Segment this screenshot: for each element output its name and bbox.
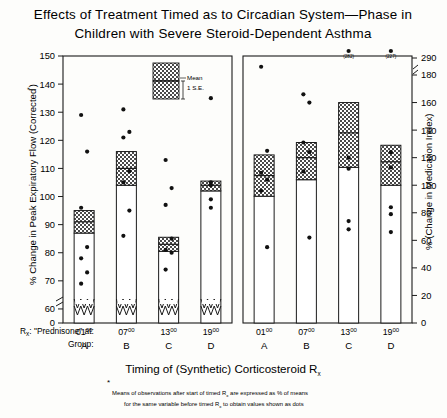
left-tick-label: 80 [45, 248, 55, 258]
left-tick-label: 120 [39, 136, 55, 146]
bar-group-A[interactable] [74, 211, 94, 323]
axes-layer: 1501401301201101009080706002901801601401… [39, 51, 436, 328]
footnote-star: * [107, 378, 110, 387]
x-tick-time-D: 1900 [203, 327, 220, 337]
data-point-dot [259, 189, 263, 193]
data-point-dot [307, 235, 311, 239]
rx-text: : "Prednisone" at: [29, 326, 94, 336]
right-tick-label: 180 [421, 70, 437, 80]
right-tick-label: 140 [421, 126, 437, 136]
x-tick-group-C: C [165, 340, 172, 351]
data-point-dot [170, 186, 174, 190]
data-point-dot [347, 227, 351, 231]
data-point-dot [121, 234, 125, 238]
data-point-dot [121, 107, 125, 111]
left-tick-label: 90 [45, 220, 55, 230]
right-tick-label: 100 [421, 181, 437, 191]
data-point-dot [389, 150, 393, 154]
outlier-dot [389, 49, 393, 53]
data-point-dot [265, 245, 269, 249]
standard-error-band [296, 143, 316, 180]
legend-upper-se-box [153, 63, 179, 81]
panel-medication-index: (282)(227) [254, 49, 401, 323]
data-point-dot [259, 65, 263, 69]
data-point-dot [389, 205, 393, 209]
x-tick-group-A: A [261, 340, 268, 351]
x-axis-labels: 0100A0700B1300C1900D0100A0700B1300C1900D [76, 327, 400, 351]
data-point-dot [164, 158, 168, 162]
left-axis-paren: ) [27, 84, 38, 87]
data-point-dot [209, 206, 213, 210]
data-point-dot [85, 245, 89, 249]
right-tick-label: 0 [421, 318, 426, 328]
bar-group-C[interactable] [159, 237, 179, 323]
bar-group-A[interactable] [254, 155, 274, 323]
data-point-dot [79, 282, 83, 286]
footnote-line1-a: Means of observations after start of tim… [112, 390, 226, 396]
data-point-dot [164, 248, 168, 252]
chart-title-line2: Children with Severe Steroid-Dependent A… [74, 26, 371, 41]
bar-group-C[interactable] [339, 103, 359, 323]
data-point-dot [121, 180, 125, 184]
chart-title-line1: Effects of Treatment Timed as to Circadi… [34, 7, 412, 22]
data-point-dot [389, 212, 393, 216]
row-label-group: Group: [68, 339, 94, 349]
row-label-rx: Rx: "Prednisone" at: [20, 326, 94, 337]
x-tick-time-D: 1900 [383, 327, 400, 337]
data-point-dot [259, 171, 263, 175]
data-point-dot [79, 206, 83, 210]
x-axis-title-sub: x [318, 370, 322, 377]
legend: Mean 1 S.E. [153, 63, 204, 99]
bar-group-B[interactable] [296, 143, 316, 323]
data-point-dot [127, 208, 131, 212]
data-point-dot [79, 113, 83, 117]
footnote-line2-a: for the same variable before timed R [124, 401, 219, 407]
right-axis-break [413, 65, 418, 74]
left-tick-label: 100 [39, 192, 55, 202]
x-tick-group-B: B [123, 340, 129, 351]
footnote-line2-b: to obtain values shown as dots [221, 401, 303, 407]
bar-column [339, 167, 359, 323]
bar-group-D[interactable] [201, 181, 221, 323]
bar-group-B[interactable] [116, 152, 136, 323]
outlier-dot [347, 49, 351, 53]
data-point-dot [301, 92, 305, 96]
x-tick-time-C: 1300 [340, 327, 357, 337]
data-point-dot [79, 256, 83, 260]
right-tick-label: 80 [421, 208, 431, 218]
data-point-dot [265, 178, 269, 182]
data-point-dot [347, 167, 351, 171]
legend-lower-se-box [153, 81, 179, 99]
x-tick-time-A: 0100 [256, 327, 273, 337]
data-point-dot [170, 237, 174, 241]
right-tick-label: 290 [421, 53, 437, 63]
data-point-dot [127, 130, 131, 134]
x-tick-group-D: D [387, 340, 394, 351]
bar-column [159, 251, 179, 323]
left-tick-label: 140 [39, 80, 55, 90]
left-axis-label-text: % Change in Peak Expiratory Flow (Correc… [27, 89, 38, 285]
svg-text:Rx: "Prednisone" at:: Rx: "Prednisone" at: [20, 326, 94, 337]
x-tick-group-C: C [345, 340, 352, 351]
data-point-dot [209, 197, 213, 201]
x-tick-time-C: 1300 [160, 327, 177, 337]
x-tick-group-D: D [207, 340, 214, 351]
x-axis-title-text: Timing of (Synthetic) Corticosteroid R [125, 362, 317, 375]
data-point-dot [301, 169, 305, 173]
figure-root: Effects of Treatment Timed as to Circadi… [0, 0, 447, 418]
x-tick-time-B: 0700 [298, 327, 315, 337]
bar-column [74, 233, 94, 323]
footnote-line1: Means of observations after start of tim… [112, 390, 308, 398]
left-axis-label: % Change in Peak Expiratory Flow (Correc… [26, 84, 38, 285]
data-point-dot [209, 183, 213, 187]
data-point-dot [85, 149, 89, 153]
data-point-dot [85, 270, 89, 274]
right-tick-label: 40 [421, 263, 431, 273]
right-tick-label: 160 [421, 98, 437, 108]
outlier-label: (282) [343, 54, 354, 59]
left-tick-label: 70 [45, 276, 55, 286]
data-point-dot [307, 100, 311, 104]
right-tick-label: 20 [421, 291, 431, 301]
legend-se-label: 1 S.E. [187, 84, 204, 91]
data-point-dot [164, 268, 168, 272]
